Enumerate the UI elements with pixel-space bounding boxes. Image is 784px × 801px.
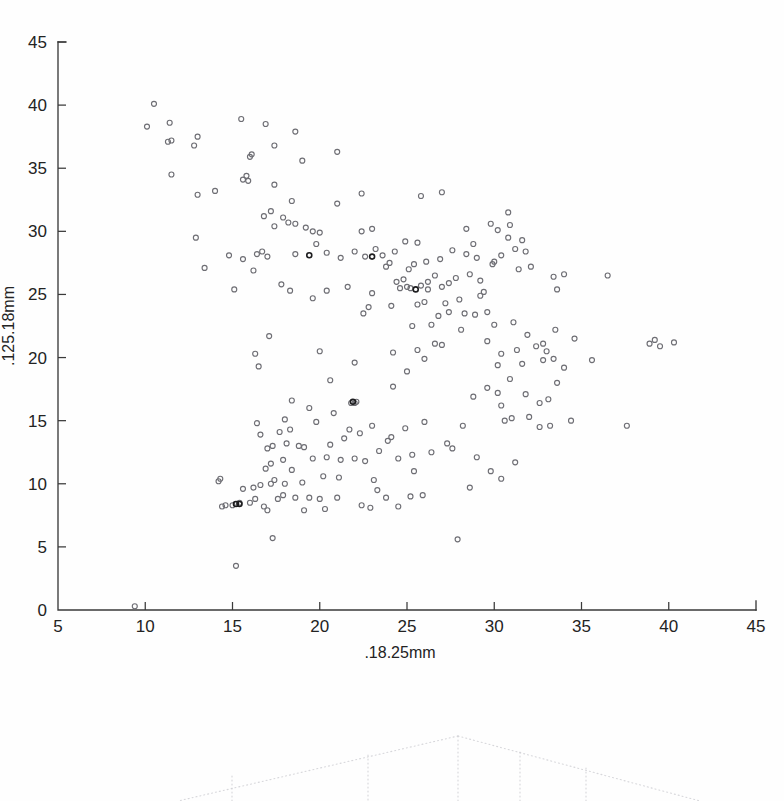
data-point (275, 496, 280, 501)
data-point (432, 273, 437, 278)
data-point (380, 253, 385, 258)
data-point (398, 286, 403, 291)
y-tick-label: 0 (38, 601, 47, 620)
data-point (467, 485, 472, 490)
data-point (293, 221, 298, 226)
y-tick-label: 5 (38, 538, 47, 557)
data-point (415, 347, 420, 352)
data-point (473, 312, 478, 317)
data-point (439, 342, 444, 347)
data-point (338, 457, 343, 462)
data-point (422, 300, 427, 305)
data-point (347, 427, 352, 432)
data-point (370, 226, 375, 231)
data-point (548, 423, 553, 428)
x-tick-label: 25 (398, 617, 417, 636)
data-point (363, 459, 368, 464)
data-point (546, 397, 551, 402)
data-point (239, 117, 244, 122)
data-point (410, 452, 415, 457)
data-point (485, 385, 490, 390)
y-axis-title: .125.18mm (0, 286, 17, 366)
data-point (361, 311, 366, 316)
data-point (450, 446, 455, 451)
data-point (375, 488, 380, 493)
data-point (647, 341, 652, 346)
data-point (403, 426, 408, 431)
axes-group (58, 42, 756, 610)
data-point (263, 122, 268, 127)
data-point (425, 279, 430, 284)
data-point (495, 363, 500, 368)
data-point (459, 327, 464, 332)
data-point (244, 173, 249, 178)
data-point (247, 500, 252, 505)
data-point (265, 446, 270, 451)
data-point (281, 493, 286, 498)
axis-spines (58, 42, 756, 610)
data-point (562, 272, 567, 277)
dendrogram-fragment-svg (0, 680, 784, 801)
y-tick-label: 10 (28, 475, 47, 494)
data-point (408, 494, 413, 499)
data-point (293, 129, 298, 134)
x-axis-title: .18.25mm (364, 644, 435, 661)
data-point (467, 272, 472, 277)
data-point (415, 302, 420, 307)
data-point (328, 378, 333, 383)
data-point (289, 467, 294, 472)
data-point (443, 301, 448, 306)
data-point (387, 260, 392, 265)
data-point (396, 456, 401, 461)
x-tick-label: 30 (485, 617, 504, 636)
data-point (272, 224, 277, 229)
data-point (411, 469, 416, 474)
data-point (268, 209, 273, 214)
data-point-overlapped (413, 287, 418, 292)
data-point (373, 247, 378, 252)
data-point (370, 423, 375, 428)
data-point (345, 284, 350, 289)
data-point (589, 358, 594, 363)
data-point (553, 327, 558, 332)
data-point (267, 334, 272, 339)
data-points-group (132, 101, 676, 608)
data-point (391, 350, 396, 355)
data-point (605, 273, 610, 278)
data-point (513, 460, 518, 465)
data-point (258, 432, 263, 437)
y-tick-label: 25 (28, 285, 47, 304)
data-point (251, 268, 256, 273)
data-point (389, 303, 394, 308)
data-point (317, 496, 322, 501)
y-tick-label: 30 (28, 222, 47, 241)
data-point (277, 430, 282, 435)
data-point (509, 416, 514, 421)
data-point (534, 344, 539, 349)
data-point (555, 380, 560, 385)
data-point (422, 356, 427, 361)
data-point (256, 364, 261, 369)
data-point (352, 360, 357, 365)
data-point (281, 215, 286, 220)
y-tick-label: 35 (28, 159, 47, 178)
data-point (335, 149, 340, 154)
data-point (520, 238, 525, 243)
data-point (272, 143, 277, 148)
data-point (202, 265, 207, 270)
data-point (425, 287, 430, 292)
data-point (270, 443, 275, 448)
data-point (151, 101, 156, 106)
data-point (322, 507, 327, 512)
data-point (394, 279, 399, 284)
data-point (232, 287, 237, 292)
data-point (260, 249, 265, 254)
data-point (335, 201, 340, 206)
data-point (424, 259, 429, 264)
data-point (445, 441, 450, 446)
data-point (192, 143, 197, 148)
data-point (359, 229, 364, 234)
data-point-overlapped (307, 253, 312, 258)
data-point (462, 311, 467, 316)
data-point (446, 310, 451, 315)
